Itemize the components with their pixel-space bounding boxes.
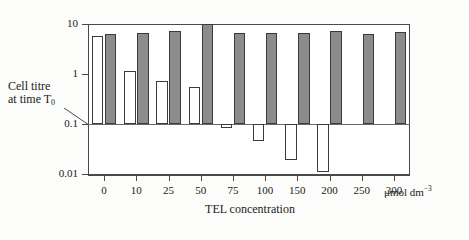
y-axis-label-line2: at time T (8, 92, 51, 106)
bar-filled-bars-300 (395, 32, 407, 124)
x-axis-units-exponent: −3 (424, 184, 432, 193)
bar-open-bars-50 (189, 87, 201, 124)
y-axis-label: Cell titre at time T0 (8, 80, 86, 107)
bar-open-bars-0 (92, 36, 104, 124)
x-axis-units-text: μmol dm (384, 186, 424, 198)
bar-open-bars-25 (156, 81, 168, 124)
x-tick-mark (394, 175, 395, 181)
x-tick-mark (169, 175, 170, 181)
bar-open-bars-10 (124, 71, 136, 124)
y-tick-label-1: 1 (24, 68, 78, 79)
x-tick-mark (201, 175, 202, 181)
bar-filled-bars-10 (137, 33, 149, 124)
bar-filled-bars-50 (202, 24, 214, 124)
y-axis-label-line1: Cell titre (8, 79, 50, 93)
bar-filled-bars-0 (105, 34, 117, 124)
bar-filled-bars-100 (266, 33, 278, 124)
bar-open-bars-75 (221, 124, 233, 128)
bar-open-bars-200 (317, 124, 329, 172)
y-tick-label-0.01: 0.01 (24, 168, 78, 179)
x-tick-mark (265, 175, 266, 181)
y-tick-label-10: 10 (24, 18, 78, 29)
bar-open-bars-100 (253, 124, 265, 141)
x-axis-units: μmol dm−3 (384, 184, 432, 198)
bar-filled-bars-150 (298, 33, 310, 124)
x-tick-mark (233, 175, 234, 181)
figure-container: Cell titre at time T0 10 1 0.1 0.01 0102… (0, 0, 469, 240)
bar-filled-bars-75 (234, 33, 246, 124)
bar-filled-bars-250 (363, 34, 375, 124)
y-tick-label-0.1: 0.1 (24, 118, 78, 129)
x-tick-mark (330, 175, 331, 181)
bar-filled-bars-25 (169, 31, 181, 125)
x-tick-mark (297, 175, 298, 181)
y-axis-label-subscript: 0 (51, 98, 55, 107)
x-axis-label: TEL concentration (120, 202, 380, 217)
x-tick-mark (136, 175, 137, 181)
bar-open-bars-150 (285, 124, 297, 160)
bar-filled-bars-200 (330, 31, 342, 124)
x-tick-mark (104, 175, 105, 181)
x-tick-mark (362, 175, 363, 181)
bars-layer (88, 24, 410, 175)
